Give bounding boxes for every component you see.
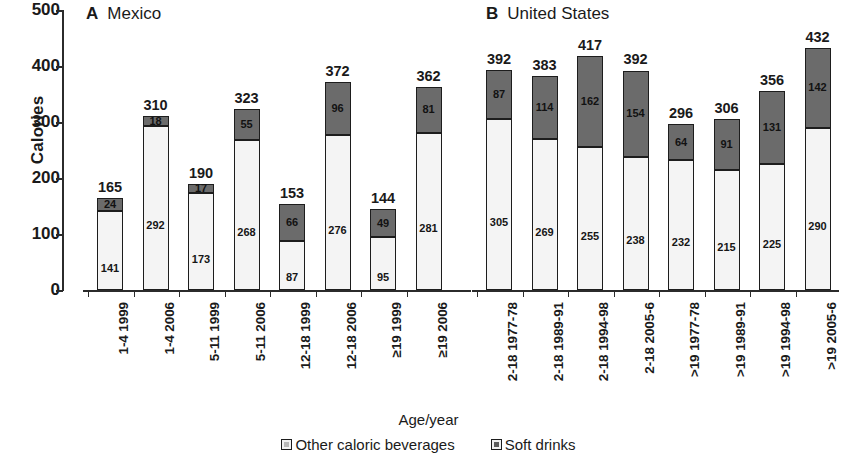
segment-value-label: 81 — [422, 104, 434, 115]
x-axis-label-5-11-2006: 5-11 2006 — [253, 302, 268, 361]
x-tick-mark — [523, 290, 524, 297]
segment-other-caloric-beverages: 290 — [805, 128, 831, 290]
bar-total-label: 372 — [325, 63, 349, 79]
legend-label: Other caloric beverages — [295, 436, 454, 453]
segment-soft-drinks: 96 — [325, 82, 351, 136]
x-axis-label->19-2005-6: >19 2005-6 — [824, 302, 839, 370]
segment-other-caloric-beverages: 238 — [623, 157, 649, 290]
dark-square-icon — [491, 439, 502, 450]
segment-soft-drinks: 131 — [759, 91, 785, 164]
segment-value-label: 142 — [808, 82, 826, 93]
bar-total-label: 144 — [371, 190, 395, 206]
chart-legend: Other caloric beveragesSoft drinks — [0, 436, 857, 453]
segment-other-caloric-beverages: 232 — [668, 160, 694, 290]
y-tick-300: 300 — [14, 113, 60, 130]
bar-total-label: 417 — [578, 37, 602, 53]
segment-value-label: 238 — [626, 235, 644, 246]
bar-total-label: 306 — [714, 100, 738, 116]
stacked-bar-chart-figure: Calories 5004003002001000 AMexico1412416… — [0, 0, 857, 463]
x-axis-label-1-4-1999: 1-4 1999 — [116, 302, 131, 355]
segment-value-label: 24 — [104, 199, 116, 210]
segment-value-label: 66 — [286, 217, 298, 228]
segment-other-caloric-beverages: 255 — [577, 147, 603, 290]
bar-total-label: 190 — [189, 165, 213, 181]
segment-other-caloric-beverages: 268 — [234, 140, 260, 290]
segment-soft-drinks: 154 — [623, 71, 649, 157]
legend-item-other-caloric-beverages: Other caloric beverages — [281, 436, 454, 453]
segment-value-label: 49 — [377, 218, 389, 229]
segment-value-label: 91 — [720, 139, 732, 150]
legend-item-soft-drinks: Soft drinks — [491, 436, 576, 453]
y-tick-mark — [56, 10, 63, 12]
segment-value-label: 18 — [149, 116, 161, 127]
segment-value-label: 96 — [331, 103, 343, 114]
x-tick-mark — [407, 290, 408, 297]
segment-value-label: 215 — [717, 242, 735, 253]
segment-other-caloric-beverages: 305 — [486, 119, 512, 290]
x-axis-label-5-11-1999: 5-11 1999 — [207, 302, 222, 361]
bar-total-label: 356 — [760, 72, 784, 88]
segment-value-label: 114 — [536, 102, 554, 113]
segment-value-label: 154 — [626, 108, 644, 119]
segment-value-label: 95 — [377, 272, 389, 283]
segment-value-label: 17 — [195, 183, 207, 194]
x-axis-label-2-18-1989-91: 2-18 1989-91 — [551, 302, 566, 381]
y-tick-400: 400 — [14, 57, 60, 74]
segment-value-label: 173 — [192, 254, 210, 265]
segment-value-label: 87 — [286, 272, 298, 283]
bar-2-18-1994-98: 255162417 — [577, 56, 603, 290]
x-axis-label-2-18-1977-78: 2-18 1977-78 — [505, 302, 520, 381]
panel-letter: A — [86, 4, 98, 23]
x-tick-mark — [88, 290, 89, 297]
x-axis-label-2-18-1994-98: 2-18 1994-98 — [596, 302, 611, 381]
bar->19-1977-78: 23264296 — [668, 124, 694, 290]
x-tick-mark — [270, 290, 271, 297]
bar-total-label: 392 — [623, 51, 647, 67]
panel-title-united-states: BUnited States — [486, 4, 609, 24]
segment-soft-drinks: 114 — [532, 76, 558, 140]
segment-other-caloric-beverages: 173 — [188, 193, 214, 290]
segment-value-label: 269 — [535, 227, 553, 238]
segment-other-caloric-beverages: 276 — [325, 135, 351, 290]
x-axis-line — [83, 290, 471, 292]
bar-1-4-1999: 14124165 — [97, 198, 123, 290]
x-axis-label-12-18-2006: 12-18 2006 — [344, 302, 359, 369]
x-axis-label->19-1989-91: >19 1989-91 — [733, 302, 748, 377]
bar-5-11-2006: 26855323 — [234, 109, 260, 290]
segment-value-label: 87 — [493, 89, 505, 100]
x-axis-label->19-1977-78: >19 1977-78 — [687, 302, 702, 377]
segment-other-caloric-beverages: 225 — [759, 164, 785, 290]
segment-soft-drinks: 87 — [486, 70, 512, 119]
bar-total-label: 310 — [143, 97, 167, 113]
bar-5-11-1999: 17317190 — [188, 184, 214, 290]
bar->19-1994-98: 225131356 — [759, 91, 785, 290]
bar-total-label: 153 — [280, 185, 304, 201]
segment-other-caloric-beverages: 141 — [97, 211, 123, 290]
y-tick-100: 100 — [14, 225, 60, 242]
bar-total-label: 362 — [416, 68, 440, 84]
segment-value-label: 162 — [581, 96, 599, 107]
bar-≥19-2006: 28181362 — [416, 87, 442, 290]
x-tick-mark — [614, 290, 615, 297]
segment-other-caloric-beverages: 281 — [416, 133, 442, 290]
bar-1-4-2006: 29218310 — [143, 116, 169, 290]
y-tick-500: 500 — [14, 1, 60, 18]
panel-title-mexico: AMexico — [86, 4, 161, 24]
bar-2-18-2005-6: 238154392 — [623, 70, 649, 290]
x-axis-label-≥19-1999: ≥19 1999 — [389, 302, 404, 357]
x-tick-mark — [134, 290, 135, 297]
x-axis-label-≥19-2006: ≥19 2006 — [435, 302, 450, 357]
y-tick-mark — [56, 66, 63, 68]
bar-2-18-1977-78: 30587392 — [486, 70, 512, 290]
segment-value-label: 64 — [675, 137, 687, 148]
segment-soft-drinks: 24 — [97, 198, 123, 211]
x-axis-label-12-18-1999: 12-18 1999 — [298, 302, 313, 369]
bar-total-label: 323 — [234, 90, 258, 106]
segment-value-label: 131 — [763, 122, 781, 133]
bar->19-1989-91: 21591306 — [714, 119, 740, 290]
segment-value-label: 232 — [672, 237, 690, 248]
y-tick-mark — [56, 290, 63, 292]
segment-soft-drinks: 162 — [577, 56, 603, 147]
bar-12-18-2006: 27696372 — [325, 82, 351, 290]
segment-soft-drinks: 142 — [805, 48, 831, 128]
